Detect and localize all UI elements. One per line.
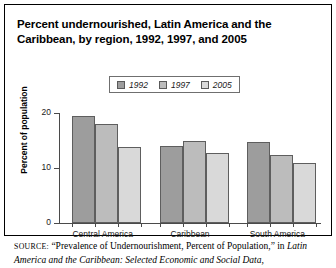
legend-label: 2005 — [213, 80, 232, 90]
legend-swatch-icon — [159, 81, 167, 89]
legend-item: 2005 — [201, 80, 232, 90]
x-axis-tick — [183, 223, 184, 227]
x-axis-tick — [206, 223, 207, 227]
legend-swatch-icon — [201, 81, 209, 89]
x-axis-tick — [118, 223, 119, 227]
bar — [118, 147, 141, 223]
x-axis-tick — [270, 223, 271, 227]
bar — [160, 146, 183, 223]
bar — [247, 142, 270, 223]
legend-item: 1992 — [117, 80, 148, 90]
x-axis-category-label: South America — [234, 229, 321, 239]
x-axis-line — [59, 223, 321, 224]
chart-frame: Percent undernourished, Latin America an… — [4, 4, 332, 236]
x-axis-category-label: Caribbean — [146, 229, 233, 239]
y-axis-tick: 0 — [54, 223, 59, 224]
page-title: Percent undernourished, Latin America an… — [17, 17, 323, 47]
x-axis-tick — [293, 223, 294, 227]
y-axis-tick-label: 0 — [46, 217, 51, 227]
y-axis-tick-label: 20 — [42, 107, 51, 117]
source-prefix: SOURCE: — [14, 242, 49, 251]
legend-item: 1997 — [159, 80, 190, 90]
x-axis-category-label: Central America — [59, 229, 146, 239]
bar — [95, 124, 118, 223]
y-axis-line — [59, 113, 60, 224]
x-axis-tick — [316, 223, 317, 227]
y-axis-tick: 20 — [54, 113, 59, 114]
bar — [293, 163, 316, 224]
x-axis-tick — [160, 223, 161, 227]
legend-label: 1992 — [129, 80, 148, 90]
plot-area: Central AmericaCaribbeanSouth America010… — [59, 113, 321, 223]
y-axis-tick-label: 10 — [42, 162, 51, 172]
bar — [206, 153, 229, 223]
x-axis-tick — [95, 223, 96, 227]
figure: Percent undernourished, Latin America an… — [0, 0, 336, 268]
source-note: SOURCE: “Prevalence of Undernourishment,… — [14, 240, 326, 266]
x-axis-tick — [141, 223, 142, 227]
x-axis-tick — [72, 223, 73, 227]
bar — [183, 141, 206, 224]
y-axis-label: Percent of population — [19, 70, 29, 190]
x-axis-tick — [247, 223, 248, 227]
source-text: “Prevalence of Undernourishment, Percent… — [49, 241, 287, 251]
legend-label: 1997 — [171, 80, 190, 90]
y-axis-tick: 10 — [54, 168, 59, 169]
bar — [72, 116, 95, 223]
chart-legend: 199219972005 — [109, 76, 240, 93]
legend-swatch-icon — [117, 81, 125, 89]
bar — [270, 155, 293, 223]
x-axis-tick — [229, 223, 230, 227]
